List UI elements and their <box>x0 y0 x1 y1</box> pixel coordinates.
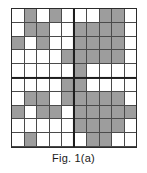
grid-cell-r2-c5 <box>62 23 75 37</box>
grid-cell-r2-c2 <box>25 23 38 37</box>
grid-cell-r3-c3 <box>37 37 50 51</box>
grid-cell-r4-c5 <box>62 50 75 64</box>
grid-cell-r9-c9 <box>112 119 125 133</box>
grid-cell-r8-c2 <box>25 106 38 120</box>
grid-row <box>12 133 136 147</box>
grid-row <box>12 92 136 106</box>
grid-cell-r4-c1 <box>12 50 25 64</box>
grid-cell-r1-c6 <box>75 9 88 23</box>
grid-cell-r1-c1 <box>12 9 25 23</box>
grid-cell-r6-c9 <box>112 78 125 92</box>
grid-cell-r7-c10 <box>125 92 137 106</box>
grid-cell-r8-c10 <box>125 106 137 120</box>
grid-cell-r4-c9 <box>112 50 125 64</box>
grid-cell-r5-c2 <box>25 64 38 78</box>
grid-cell-r4-c4 <box>50 50 63 64</box>
grid-cell-r1-c5 <box>62 9 75 23</box>
grid-cell-r10-c3 <box>37 133 50 147</box>
grid-cell-r5-c1 <box>12 64 25 78</box>
grid-cell-r10-c10 <box>125 133 137 147</box>
grid-cell-r9-c3 <box>37 119 50 133</box>
grid-cell-r8-c1 <box>12 106 25 120</box>
grid-cell-r3-c9 <box>112 37 125 51</box>
grid-cell-r2-c8 <box>100 23 113 37</box>
grid-cell-r8-c8 <box>100 106 113 120</box>
grid-cell-r3-c4 <box>50 37 63 51</box>
grid-row <box>12 9 136 23</box>
grid-cell-r8-c5 <box>62 106 75 120</box>
grid-cell-r10-c1 <box>12 133 25 147</box>
grid-cell-r5-c8 <box>100 64 113 78</box>
grid-row <box>12 119 136 133</box>
grid-cell-r9-c8 <box>100 119 113 133</box>
grid-cell-r5-c9 <box>112 64 125 78</box>
grid-cell-r7-c1 <box>12 92 25 106</box>
grid-cell-r5-c10 <box>125 64 137 78</box>
grid-cell-r3-c1 <box>12 37 25 51</box>
grid-cell-r9-c1 <box>12 119 25 133</box>
grid-cell-r4-c6 <box>75 50 88 64</box>
grid-cell-r3-c7 <box>87 37 100 51</box>
grid-row <box>12 78 136 92</box>
grid-cell-r6-c10 <box>125 78 137 92</box>
grid-cell-r1-c3 <box>37 9 50 23</box>
grid-cell-r6-c2 <box>25 78 38 92</box>
grid-wrapper <box>11 8 137 148</box>
grid-cell-r5-c4 <box>50 64 63 78</box>
figure-container: Fig. 1(a) <box>0 0 147 173</box>
figure-caption: Fig. 1(a) <box>0 152 147 164</box>
grid-cell-r1-c8 <box>100 9 113 23</box>
grid-cell-r7-c3 <box>37 92 50 106</box>
grid-cell-r6-c3 <box>37 78 50 92</box>
grid-cell-r3-c2 <box>25 37 38 51</box>
grid-cell-r4-c10 <box>125 50 137 64</box>
grid-cell-r2-c4 <box>50 23 63 37</box>
grid-cell-r7-c9 <box>112 92 125 106</box>
grid-cell-r3-c5 <box>62 37 75 51</box>
grid-row <box>12 50 136 64</box>
grid-cell-r2-c1 <box>12 23 25 37</box>
grid-cell-r1-c10 <box>125 9 137 23</box>
grid-cell-r1-c4 <box>50 9 63 23</box>
grid-cell-r4-c3 <box>37 50 50 64</box>
grid-cell-r4-c2 <box>25 50 38 64</box>
grid-cell-r4-c8 <box>100 50 113 64</box>
grid-cell-r10-c8 <box>100 133 113 147</box>
grid-cell-r8-c4 <box>50 106 63 120</box>
grid-cell-r9-c10 <box>125 119 137 133</box>
grid-cell-r5-c7 <box>87 64 100 78</box>
grid-cell-r5-c6 <box>75 64 88 78</box>
grid-cell-r2-c9 <box>112 23 125 37</box>
grid-cell-r1-c7 <box>87 9 100 23</box>
grid-cell-r8-c7 <box>87 106 100 120</box>
grid-cell-r8-c3 <box>37 106 50 120</box>
grid-cell-r7-c8 <box>100 92 113 106</box>
grid-cell-r10-c9 <box>112 133 125 147</box>
grid-row <box>12 106 136 120</box>
grid-row <box>12 37 136 51</box>
grid-cell-r6-c4 <box>50 78 63 92</box>
grid-row <box>12 64 136 78</box>
grid-cell-r8-c6 <box>75 106 88 120</box>
grid-cell-r4-c7 <box>87 50 100 64</box>
grid-cell-r7-c5 <box>62 92 75 106</box>
grid-cell-r10-c4 <box>50 133 63 147</box>
grid-row <box>12 23 136 37</box>
grid-cell-r2-c3 <box>37 23 50 37</box>
grid-cell-r1-c2 <box>25 9 38 23</box>
grid-cell-r1-c9 <box>112 9 125 23</box>
grid-cell-r9-c7 <box>87 119 100 133</box>
grid-cell-r9-c5 <box>62 119 75 133</box>
grid-cell-r9-c6 <box>75 119 88 133</box>
grid-cell-r5-c5 <box>62 64 75 78</box>
grid-cell-r3-c8 <box>100 37 113 51</box>
grid-cell-r10-c2 <box>25 133 38 147</box>
grid-cell-r3-c6 <box>75 37 88 51</box>
grid-cell-r2-c6 <box>75 23 88 37</box>
grid-cell-r7-c2 <box>25 92 38 106</box>
grid-cell-r6-c1 <box>12 78 25 92</box>
grid-cell-r6-c6 <box>75 78 88 92</box>
grid-cell-r6-c5 <box>62 78 75 92</box>
grid-cell-r7-c6 <box>75 92 88 106</box>
grid-cell-r5-c3 <box>37 64 50 78</box>
